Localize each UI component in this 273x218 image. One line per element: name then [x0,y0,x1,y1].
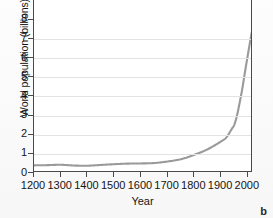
figure-panel: World population (billions) 012345678 12… [0,0,273,218]
x-axis-tick-1400: 1400 [74,179,98,191]
gridline [34,135,251,136]
y-axis-tick-0: 0 [21,167,27,178]
gridlines [34,0,251,171]
x-axis-tick-1900: 1900 [208,179,232,191]
y-tick-mark [28,153,33,154]
x-axis-tick-1700: 1700 [154,179,178,191]
y-axis-tick-3: 3 [21,109,27,120]
y-axis-tick-1: 1 [21,147,27,158]
x-tick-mark [33,172,34,177]
y-axis-tick-7: 7 [21,32,27,43]
y-axis-tick-2: 2 [21,128,27,139]
y-tick-mark [28,57,33,58]
x-tick-mark [113,172,114,177]
x-axis-tick-2000: 2000 [235,179,259,191]
x-axis-tick-labels: 120013001400150016001700180019002000 [0,179,273,193]
gridline [34,58,251,59]
y-axis-tick-5: 5 [21,71,27,82]
x-tick-mark [86,172,87,177]
y-tick-mark [28,95,33,96]
y-axis-tick-6: 6 [21,52,27,63]
x-tick-mark [220,172,221,177]
x-axis-tick-1500: 1500 [101,179,125,191]
gridline [34,116,251,117]
x-axis-tick-1200: 1200 [21,179,45,191]
x-tick-mark [247,172,248,177]
plot-area [33,0,252,172]
x-axis-tick-1300: 1300 [47,179,71,191]
x-axis-tick-1800: 1800 [181,179,205,191]
y-tick-mark [28,19,33,20]
x-axis-title: Year [33,195,252,207]
gridline [34,154,251,155]
gridline [34,77,251,78]
x-tick-mark [140,172,141,177]
x-tick-mark [193,172,194,177]
y-tick-mark [28,115,33,116]
x-tick-mark [167,172,168,177]
y-tick-mark [28,38,33,39]
y-tick-mark [28,76,33,77]
x-tick-mark [60,172,61,177]
gridline [34,96,251,97]
gridline [34,39,251,40]
panel-letter-label: b [260,205,267,217]
y-tick-mark [28,134,33,135]
y-axis-tick-8: 8 [21,13,27,24]
x-axis-tick-1600: 1600 [128,179,152,191]
y-axis-tick-4: 4 [21,90,27,101]
